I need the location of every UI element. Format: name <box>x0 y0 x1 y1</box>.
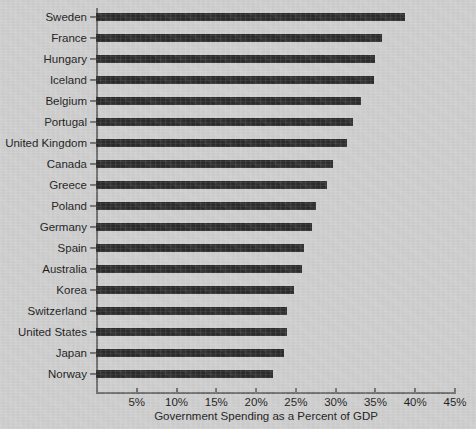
category-label: Spain <box>58 241 87 255</box>
bar-row: Canada <box>96 155 476 176</box>
x-axis-tick <box>454 388 456 394</box>
x-axis-title: Government Spending as a Percent of GDP <box>0 410 476 422</box>
bar <box>96 139 347 147</box>
x-axis-tick <box>374 388 376 394</box>
bar-row: Norway <box>96 365 476 386</box>
bar <box>96 328 287 336</box>
bar-row: United States <box>96 323 476 344</box>
category-label: United States <box>18 325 87 339</box>
x-axis-tick <box>255 388 257 394</box>
bar-row: Iceland <box>96 71 476 92</box>
bar-row: Germany <box>96 218 476 239</box>
x-axis-tick <box>215 388 217 394</box>
x-axis-tick <box>136 388 138 394</box>
category-label: United Kingdom <box>5 136 87 150</box>
plot-area: SwedenFranceHungaryIcelandBelgiumPortuga… <box>96 8 476 393</box>
bar-row: Japan <box>96 344 476 365</box>
bar <box>96 286 294 294</box>
bar <box>96 55 375 63</box>
bar <box>96 160 333 168</box>
category-label: Korea <box>56 283 87 297</box>
category-label: Portugal <box>44 115 87 129</box>
bar <box>96 202 316 210</box>
bar-row: United Kingdom <box>96 134 476 155</box>
x-axis-tick-label: 45% <box>430 396 476 408</box>
category-label: Iceland <box>50 73 87 87</box>
category-label: France <box>51 31 87 45</box>
bar-row: Australia <box>96 260 476 281</box>
x-axis-tick <box>335 388 337 394</box>
bar <box>96 181 327 189</box>
category-label: Switzerland <box>28 304 87 318</box>
bar <box>96 265 302 273</box>
bar-row: Poland <box>96 197 476 218</box>
bar-chart: SwedenFranceHungaryIcelandBelgiumPortuga… <box>0 0 476 429</box>
bar-row: Korea <box>96 281 476 302</box>
category-label: Belgium <box>45 94 87 108</box>
bar <box>96 370 273 378</box>
bar <box>96 223 312 231</box>
bar <box>96 244 304 252</box>
bar <box>96 118 353 126</box>
bar <box>96 307 287 315</box>
bar-row: Spain <box>96 239 476 260</box>
bar-row: France <box>96 29 476 50</box>
category-label: Hungary <box>44 52 87 66</box>
bar <box>96 13 405 21</box>
category-label: Germany <box>40 220 87 234</box>
bar-row: Sweden <box>96 8 476 29</box>
category-label: Canada <box>47 157 87 171</box>
bar-row: Hungary <box>96 50 476 71</box>
x-axis-tick <box>295 388 297 394</box>
bar-row: Belgium <box>96 92 476 113</box>
x-axis-tick <box>176 388 178 394</box>
bar <box>96 76 374 84</box>
x-axis-title-text: Government Spending as a Percent of GDP <box>98 410 378 422</box>
category-label: Norway <box>48 367 87 381</box>
bar <box>96 349 284 357</box>
bar-row: Greece <box>96 176 476 197</box>
bar-row: Switzerland <box>96 302 476 323</box>
category-label: Poland <box>51 199 87 213</box>
category-label: Sweden <box>45 10 87 24</box>
category-label: Japan <box>56 346 87 360</box>
category-label: Greece <box>49 178 87 192</box>
bar <box>96 97 361 105</box>
x-axis-tick <box>414 388 416 394</box>
bar <box>96 34 382 42</box>
category-label: Australia <box>42 262 87 276</box>
bar-row: Portugal <box>96 113 476 134</box>
